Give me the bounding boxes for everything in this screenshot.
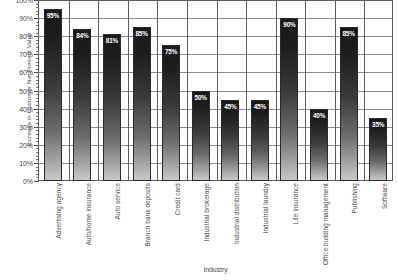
bar[interactable]: 50% [192, 91, 210, 182]
x-axis-category-text: Industrial brokerage [203, 183, 210, 241]
x-axis-category-text: Advertising agency [55, 183, 62, 239]
bar-value-label: 50% [195, 94, 207, 101]
bar-slot: 40% [304, 0, 334, 181]
x-axis-category-text: Auto service [114, 183, 121, 219]
bar-value-label: 84% [76, 32, 88, 39]
bar-slot: 81% [97, 0, 127, 181]
x-axis-category-label: Industrial distribution [216, 181, 246, 261]
bar[interactable]: 45% [251, 100, 269, 181]
bar[interactable]: 81% [103, 34, 121, 181]
bar-value-label: 75% [165, 48, 177, 55]
bar-slot: 50% [186, 0, 216, 181]
y-axis-tick-label: 40% [19, 105, 33, 112]
x-axis-category-label: Branch bank deposits [127, 181, 157, 261]
y-axis-tick-label: 70% [19, 51, 33, 58]
bar-slot: 45% [245, 0, 275, 181]
bars-layer: 95%84%81%85%75%50%45%45%90%40%85%35% [38, 0, 393, 181]
x-axis-category-text: Publishing [351, 183, 358, 214]
x-axis-category-text: Office building management [322, 183, 329, 265]
x-axis-category-label: Life insurance [275, 181, 305, 261]
x-axis-category-label: Auto/home insurance [68, 181, 98, 261]
x-axis-category-label: Office building management [304, 181, 334, 261]
bar-value-label: 85% [135, 30, 147, 37]
bar-slot: 85% [127, 0, 157, 181]
bar-slot: 75% [156, 0, 186, 181]
y-axis-tick-label: 30% [19, 123, 33, 130]
y-axis-tick-label: 100% [15, 0, 33, 4]
bar[interactable]: 40% [310, 109, 328, 181]
y-axis-tick-label: 60% [19, 69, 33, 76]
x-axis-category-label: Industrial brokerage [186, 181, 216, 261]
y-axis-tick-label: 50% [19, 87, 33, 94]
bar-value-label: 95% [47, 12, 59, 19]
bar-slot: 84% [68, 0, 98, 181]
bar-slot: 35% [363, 0, 393, 181]
y-axis-tick-label: 20% [19, 141, 33, 148]
bar-slot: 90% [275, 0, 305, 181]
x-axis-category-label: Auto service [97, 181, 127, 261]
bar[interactable]: 45% [221, 100, 239, 181]
y-axis-tick-label: 10% [19, 159, 33, 166]
y-axis-tick-label: 80% [19, 33, 33, 40]
x-axis-category-text: Industrial laundry [262, 183, 269, 233]
bar[interactable]: 35% [369, 118, 387, 181]
x-axis-category-text: Credit card [174, 183, 181, 215]
x-axis-category-text: Industrial distribution [233, 183, 240, 244]
bar-value-label: 45% [254, 103, 266, 110]
x-axis-category-text: Software [381, 183, 388, 209]
x-axis-category-text: Auto/home insurance [85, 183, 92, 245]
bar-value-label: 90% [283, 21, 295, 28]
bar-value-label: 35% [372, 121, 384, 128]
bar[interactable]: 95% [44, 9, 62, 181]
x-axis-category-text: Branch bank deposits [144, 183, 151, 246]
bar-value-label: 45% [224, 103, 236, 110]
y-axis-tick-label: 0% [23, 178, 33, 185]
bar-value-label: 40% [313, 112, 325, 119]
bar[interactable]: 85% [340, 27, 358, 181]
x-axis-category-text: Life insurance [292, 183, 299, 224]
x-axis-category-label: Software [363, 181, 393, 261]
x-axis-category-labels: Advertising agencyAuto/home insuranceAut… [38, 181, 393, 261]
x-axis-category-label: Advertising agency [38, 181, 68, 261]
bar-slot: 95% [38, 0, 68, 181]
bar[interactable]: 90% [280, 18, 298, 181]
x-axis-category-label: Publishing [334, 181, 364, 261]
y-axis-tick-labels: 100%90%80%70%60%50%40%30%20%10%0% [2, 0, 33, 181]
bar-slot: 85% [334, 0, 364, 181]
bar-value-label: 81% [106, 37, 118, 44]
x-axis-category-label: Industrial laundry [245, 181, 275, 261]
bar[interactable]: 85% [133, 27, 151, 181]
x-axis-category-label: Credit card [156, 181, 186, 261]
bar-chart: Increase in Customer Net Present Value 1… [0, 0, 397, 280]
bar-value-label: 85% [343, 30, 355, 37]
bar[interactable]: 84% [73, 29, 91, 181]
bar[interactable]: 75% [162, 45, 180, 181]
y-axis-tick-label: 90% [19, 15, 33, 22]
bar-slot: 45% [216, 0, 246, 181]
x-axis-title: Industry [38, 266, 393, 273]
